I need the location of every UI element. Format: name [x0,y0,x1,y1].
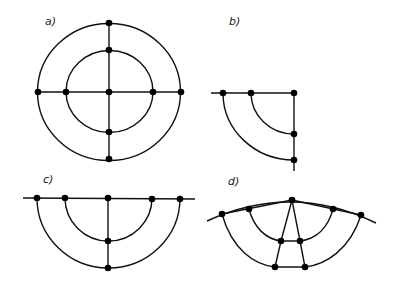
nodes-d [219,197,365,271]
panel-b: b) [211,15,297,171]
left-member-lower [275,241,281,267]
inner-arc [249,209,333,241]
panel-label-b: b) [229,15,240,28]
right-member-upper [292,200,300,241]
right-member-lower [300,241,305,267]
left-member-upper [281,200,292,241]
panel-a: a) [35,15,185,162]
inner-quarter-arc [251,93,294,134]
panel-c: c) [23,173,195,271]
structural-diagram: a) b) c) [0,0,398,286]
panel-label-d: d) [228,175,239,188]
panel-label-c: c) [43,173,53,186]
chord-right [292,200,361,215]
nodes-b [220,90,298,164]
outer-quarter-arc [223,93,294,160]
panel-d: d) [207,175,376,270]
panel-label-a: a) [45,15,56,28]
chord-left [222,200,292,214]
